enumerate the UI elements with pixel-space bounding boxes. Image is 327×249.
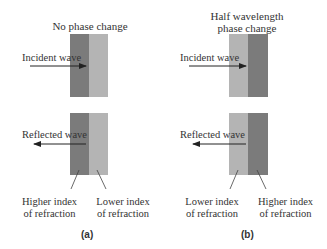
leader-line [230,170,238,189]
leader-line [71,170,79,189]
leader-line [257,170,266,189]
leader-line [97,170,106,189]
arrows-layer [0,0,327,249]
